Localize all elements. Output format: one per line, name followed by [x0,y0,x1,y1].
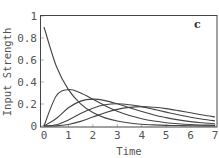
y-axis-label: Input Strength [1,28,13,117]
x-tick-label: 1 [65,129,72,142]
y-tick-label: 0.2 [17,98,37,111]
x-tick-label: 2 [90,129,97,142]
y-tick-label: 0.4 [17,76,37,89]
series-curve-1 [44,27,215,126]
x-axis-label: Time [116,145,141,157]
y-tick-label: 0.6 [17,54,37,67]
plot-curves [44,27,215,126]
line-chart: 00.20.40.60.81 01234567 c Time Input Str… [0,0,219,158]
x-tick-label: 4 [138,129,145,142]
plot-frame [41,16,218,128]
x-tick-label: 5 [163,129,170,142]
y-tick-label: 0 [30,120,37,133]
panel-label: c [194,18,201,31]
x-tick-label: 0 [41,129,48,142]
y-tick-label: 0.8 [17,32,37,45]
x-tick-label: 7 [212,129,219,142]
x-tick-label: 6 [187,129,194,142]
y-tick-label: 1 [30,10,37,23]
x-tick-label: 3 [114,129,121,142]
y-axis-ticks: 00.20.40.60.81 [17,10,44,133]
